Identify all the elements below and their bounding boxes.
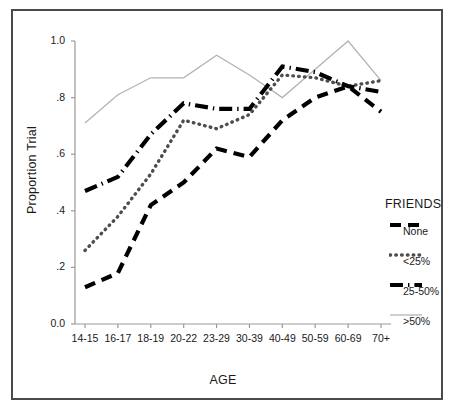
legend-label: 25-50% xyxy=(403,285,439,297)
chart-frame: Proportion Trial AGE 0.0.2.4.6.81.0 14-1… xyxy=(11,9,443,400)
legend-entry[interactable]: 25-50% xyxy=(385,275,456,305)
legend-swatch-50 xyxy=(389,305,423,311)
legend-label: None xyxy=(403,225,428,237)
legend-swatch-none xyxy=(389,215,423,221)
y-tick-label: .2 xyxy=(35,260,65,272)
y-tick-label: 1.0 xyxy=(35,34,65,46)
legend-entry[interactable]: None xyxy=(385,215,456,245)
figure-canvas: Proportion Trial AGE 0.0.2.4.6.81.0 14-1… xyxy=(0,0,456,412)
y-tick-label: 0.0 xyxy=(35,317,65,329)
legend-entry[interactable]: <25% xyxy=(385,245,456,275)
y-tick-label: .8 xyxy=(35,91,65,103)
legend-swatch-25-50 xyxy=(389,275,423,281)
legend-swatch-25 xyxy=(389,245,423,251)
series-line-25-50 xyxy=(85,66,381,191)
legend-entry[interactable]: >50% xyxy=(385,305,456,335)
legend-label: >50% xyxy=(403,315,430,327)
x-axis-title: AGE xyxy=(163,373,283,387)
series-line-none xyxy=(85,86,381,287)
legend-title: FRIENDS xyxy=(385,197,441,211)
data-series-group xyxy=(85,41,381,287)
y-tick-label: .4 xyxy=(35,204,65,216)
legend-label: <25% xyxy=(403,255,430,267)
y-tick-label: .6 xyxy=(35,147,65,159)
